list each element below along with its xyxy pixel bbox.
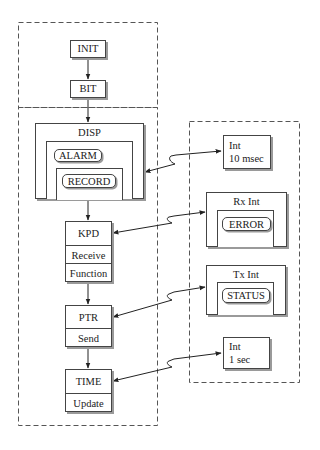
disp-label: DISP — [36, 128, 143, 139]
int-1s-line2: 1 sec — [229, 353, 250, 366]
connector-disp-int10ms — [145, 151, 221, 172]
error-pill: ERROR — [222, 217, 271, 231]
tx-int-inner-frame: STATUS — [217, 282, 274, 315]
ptr-node: PTR Send — [65, 305, 112, 347]
status-pill: STATUS — [222, 288, 270, 303]
ptr-label: PTR — [66, 313, 111, 324]
bit-node: BIT — [70, 80, 106, 98]
alarm-pill: ALARM — [54, 149, 102, 162]
ptr-send-section: Send — [66, 328, 111, 348]
record-pill: RECORD — [62, 174, 116, 188]
kpd-function-section: Function — [66, 263, 111, 283]
time-node: TIME Update — [65, 369, 112, 412]
kpd-receive-section: Receive — [66, 245, 111, 264]
int-1s-node: Int 1 sec — [223, 337, 270, 369]
int-10ms-line2: 10 msec — [229, 152, 264, 165]
disp-inner-frame: ALARM RECORD — [46, 141, 133, 199]
bit-label: BIT — [71, 84, 105, 95]
rx-int-inner-frame: ERROR — [217, 210, 274, 247]
disp-node: DISP ALARM RECORD — [35, 123, 144, 199]
connector-time-int1s — [113, 353, 221, 381]
int-1s-line1: Int — [229, 340, 241, 353]
connector-kpd-rxint — [113, 212, 205, 233]
tx-int-label: Tx Int — [207, 270, 285, 281]
int-10ms-line1: Int — [229, 139, 241, 152]
connector-ptr-txint — [113, 287, 205, 317]
init-node: INIT — [70, 40, 106, 58]
rx-int-label: Rx Int — [207, 197, 286, 208]
tx-int-node: Tx Int STATUS — [206, 265, 286, 315]
int-10ms-node: Int 10 msec — [223, 135, 271, 169]
kpd-node: KPD Receive Function — [65, 221, 112, 282]
disp-innermost-frame: RECORD — [56, 168, 123, 200]
rx-int-node: Rx Int ERROR — [206, 192, 287, 247]
init-label: INIT — [71, 44, 105, 55]
kpd-label: KPD — [66, 229, 111, 240]
time-label: TIME — [66, 377, 111, 388]
time-update-section: Update — [66, 393, 111, 413]
